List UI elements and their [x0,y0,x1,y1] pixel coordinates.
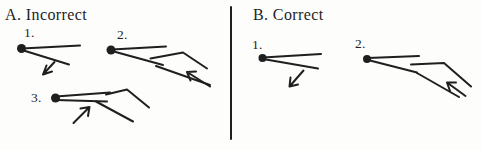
drawing-b2-pen-hand-pull [363,55,471,97]
pen-upper-line [22,46,80,49]
direction-arrow [74,107,90,123]
pen-lower-line [263,59,318,69]
drawing-a1-pen-steep-angle [17,44,80,75]
direction-arrow [187,72,210,87]
direction-arrow [43,62,55,75]
pen-lower-line [368,60,417,73]
pen-point-dot [363,55,371,63]
pen-lower-line [22,50,69,65]
direction-arrow [447,83,466,97]
drawing-a2-pen-hand-push [107,46,211,87]
hand-lower-shape [417,73,459,97]
drawing-b1-pen-shallow-angle [259,54,322,87]
drawing-a3-pen-flat-hand [51,90,149,124]
pen-lower-line [56,100,107,102]
direction-arrow [290,71,304,87]
pen-upper-line [263,54,321,58]
diagram-page: A. Incorrect B. Correct 1. 2. 3. 1. 2. [0,0,482,150]
pen-upper-line [56,93,110,97]
diagram-drawings [0,0,482,150]
pen-upper-line [368,56,419,58]
hand-lower-shape [96,102,133,122]
pen-upper-line [112,47,166,50]
hand-upper-shape [106,90,149,108]
pen-point-dot [51,94,60,103]
